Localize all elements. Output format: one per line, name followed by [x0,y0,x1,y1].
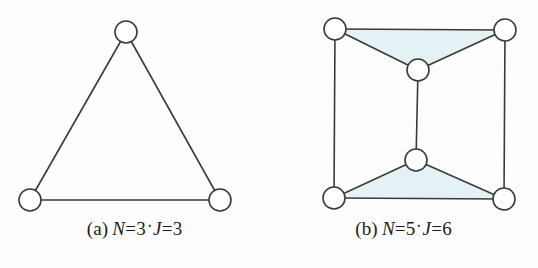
node-bottom-left [19,189,41,211]
figure-caption-b: (b)N=5‧J=6 [269,216,538,243]
node-top [115,21,137,43]
caption-value-j-b: 6 [442,218,452,239]
node-center-upper [407,59,429,81]
figure-sheet: (a)N=3‧J=3 [0,0,538,268]
caption-value-n-b: 5 [406,218,416,239]
caption-value-n-a: 3 [136,218,146,239]
caption-var-j-b: J [423,218,432,239]
shaded-face-group-b [334,29,505,199]
caption-separator-a: ‧ [146,214,153,240]
node-top-right [494,19,516,41]
edge-top-left-to-bottom-left [334,29,335,198]
edge-center-upper-to-center-lower [416,70,418,160]
caption-label-a: (a) [87,218,109,239]
caption-equals-j-b: = [431,218,442,239]
edge-top-to-bottom-left [30,32,126,200]
caption-var-j-a: J [153,218,162,239]
caption-equals-j-a: = [162,218,173,239]
caption-value-j-a: 3 [173,218,183,239]
caption-equals-n-a: = [125,218,136,239]
node-bottom-left [323,187,345,209]
figure-panel-b: (b)N=5‧J=6 [269,0,538,268]
node-center-lower [405,149,427,171]
caption-equals-n-b: = [395,218,406,239]
edge-top-right-to-bottom-right [504,30,505,199]
edge-group-a [30,32,220,200]
node-group-a [19,21,231,211]
node-top-left [324,18,346,40]
figure-panel-a: (a)N=3‧J=3 [0,0,269,268]
node-bottom-right [209,189,231,211]
edge-top-left-to-top-right [335,29,505,30]
caption-separator-b: ‧ [415,214,422,240]
caption-label-b: (b) [355,218,378,239]
node-bottom-right [493,188,515,210]
edge-bottom-left-to-bottom-right [334,198,504,199]
caption-var-n-a: N [112,218,125,239]
caption-var-n-b: N [382,218,395,239]
edge-top-to-bottom-right [126,32,220,200]
figure-caption-a: (a)N=3‧J=3 [0,216,269,243]
